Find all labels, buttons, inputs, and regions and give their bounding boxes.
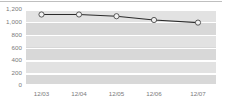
- series-1-line: [42, 15, 199, 23]
- x-axis-tick-label: 12/07: [190, 90, 205, 97]
- x-axis: 12/03 12/04 12/05 12/06 12/07: [26, 90, 216, 102]
- data-point-12-04: [76, 12, 81, 17]
- data-point-12-07: [195, 20, 200, 25]
- y-axis-tick-label: 0: [0, 82, 22, 88]
- line-chart-widget: 1,200 1,000 800 600 400 200 0 12/03 12/0…: [0, 0, 226, 104]
- y-axis-tick-label: 1,200: [0, 6, 22, 12]
- y-axis-tick-label: 800: [0, 32, 22, 38]
- data-point-12-03: [39, 12, 44, 17]
- data-point-12-05: [114, 14, 119, 19]
- data-point-12-06: [151, 17, 156, 22]
- series-layer: [26, 9, 216, 86]
- y-axis-tick-label: 400: [0, 57, 22, 63]
- y-axis-tick-label: 200: [0, 70, 22, 76]
- y-axis-tick-label: 1,000: [0, 19, 22, 25]
- x-axis-tick-label: 12/06: [146, 90, 161, 97]
- y-axis-tick-label: 600: [0, 45, 22, 51]
- x-axis-tick-label: 12/04: [71, 90, 86, 97]
- y-axis: 1,200 1,000 800 600 400 200 0: [0, 0, 24, 104]
- x-axis-tick-label: 12/05: [109, 90, 124, 97]
- top-divider: [0, 1, 222, 2]
- x-axis-tick-label: 12/03: [34, 90, 49, 97]
